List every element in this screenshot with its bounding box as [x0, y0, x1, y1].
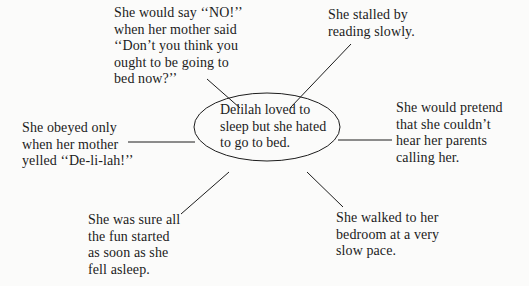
branch-left: She obeyed only when her mother yelled ‘… [22, 120, 134, 170]
web-diagram: Delilah loved to sleep but she hated to … [0, 0, 529, 286]
connector-bottom-right [307, 172, 343, 207]
branch-right: She would pretend that she couldn’t hear… [396, 100, 503, 166]
branch-bottom-left: She was sure all the fun started as soon… [88, 212, 180, 278]
center-idea: Delilah loved to sleep but she hated to … [220, 102, 338, 152]
connector-bottom-left [181, 172, 229, 214]
branch-top-left: She would say ‘‘NO!’’ when her mother sa… [114, 5, 243, 88]
connector-top-right [290, 44, 351, 108]
branch-bottom-right: She walked to her bedroom at a very slow… [336, 210, 439, 260]
branch-top-right: She stalled by reading slowly. [328, 7, 415, 40]
